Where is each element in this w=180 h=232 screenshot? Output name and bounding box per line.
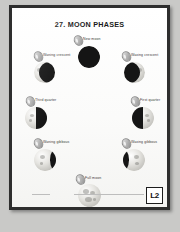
moon-phase-ring: New moon Waxing crescent: [12, 8, 167, 207]
footer-rule-center: [74, 194, 144, 195]
phase-label: Full moon: [85, 176, 101, 180]
scanned-page-background: 27. MOON PHASES New moon Wa: [0, 0, 180, 232]
worksheet-page: 27. MOON PHASES New moon Wa: [12, 8, 167, 207]
phase-full-moon: Full moon: [12, 8, 167, 207]
level-badge: L2: [146, 187, 163, 204]
footer-rule-left: [32, 194, 50, 195]
page-border: 27. MOON PHASES New moon Wa: [9, 5, 170, 210]
page-content: 27. MOON PHASES New moon Wa: [12, 8, 167, 207]
page-footer: [22, 191, 157, 199]
